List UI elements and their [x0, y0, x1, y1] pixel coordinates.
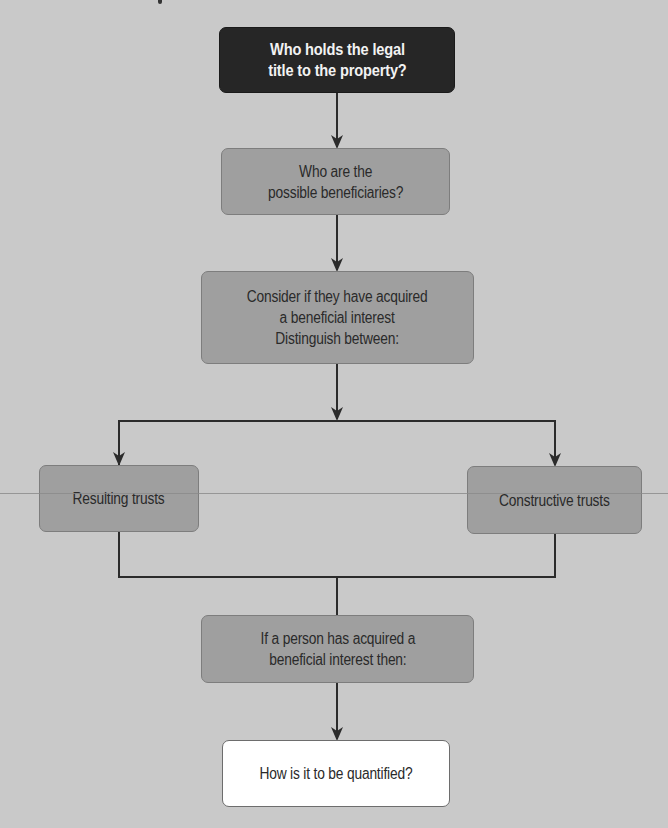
node-constructive-trusts: Constructive trusts	[467, 466, 642, 534]
scan-artifact-line	[0, 493, 668, 494]
branch-bar	[119, 421, 555, 465]
node-label: If a person has acquired a beneficial in…	[260, 628, 415, 670]
node-label: Who are the possible beneficiaries?	[268, 161, 403, 203]
node-consider: Consider if they have acquired a benefic…	[201, 271, 474, 364]
flowchart-canvas: Who holds the legal title to the propert…	[0, 0, 668, 828]
node-label: Who holds the legal title to the propert…	[268, 39, 406, 81]
connectors	[0, 0, 668, 828]
join-bar	[119, 532, 555, 577]
node-quantified: How is it to be quantified?	[222, 740, 450, 807]
node-legal-title: Who holds the legal title to the propert…	[219, 27, 455, 93]
node-label: Consider if they have acquired a benefic…	[247, 286, 428, 349]
node-resulting-trusts: Resulting trusts	[39, 465, 199, 532]
node-label: Resulting trusts	[73, 488, 165, 509]
node-acquired-interest: If a person has acquired a beneficial in…	[201, 615, 474, 683]
node-label: How is it to be quantified?	[260, 763, 413, 784]
node-beneficiaries: Who are the possible beneficiaries?	[221, 148, 450, 215]
